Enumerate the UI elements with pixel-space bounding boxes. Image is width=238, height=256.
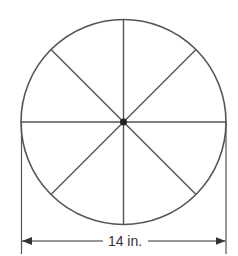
- center-point: [120, 119, 127, 126]
- circle-diagram: 14 in.: [0, 0, 238, 256]
- diameter-label: 14 in.: [108, 233, 142, 249]
